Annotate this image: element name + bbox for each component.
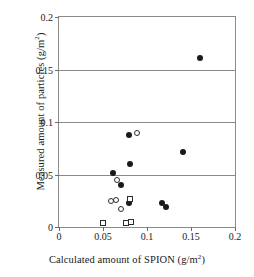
y-tick-label: 0.05	[36, 169, 54, 180]
y-tick-mark	[55, 175, 59, 176]
x-tick-label: 0	[57, 231, 62, 242]
y-axis-label-tail: )	[35, 32, 46, 36]
y-tick-label: 0	[48, 222, 53, 233]
y-axis-label-text: Measured amount of particles (g/m	[35, 40, 46, 191]
data-point-open-square	[128, 219, 134, 225]
x-tick-label: 0.1	[141, 231, 154, 242]
data-point-open-square	[127, 196, 133, 202]
x-axis-label: Calculated amount of SPION (g/m2)	[0, 254, 254, 265]
data-point-filled-circle	[126, 132, 132, 138]
data-point-filled-circle	[197, 55, 203, 61]
y-axis-label: Measured amount of particles (g/m2)	[35, 2, 46, 222]
scatter-plot-figure: Measured amount of particles (g/m2) 00.0…	[0, 0, 254, 277]
y-axis-label-superscript: 2	[33, 36, 41, 40]
data-point-open-circle	[118, 206, 124, 212]
gridline-y	[59, 70, 235, 71]
y-tick-label: 0.15	[36, 64, 54, 75]
data-point-filled-circle	[118, 182, 124, 188]
plot-area: 00.050.10.150.200.050.10.150.2	[58, 16, 236, 228]
x-tick-label: 0.15	[182, 231, 200, 242]
gridline-y	[59, 122, 235, 123]
data-point-filled-circle	[110, 170, 116, 176]
y-tick-mark	[55, 17, 59, 18]
data-point-open-circle	[113, 197, 119, 203]
x-axis-label-tail: )	[201, 254, 205, 265]
x-tick-label: 0.05	[94, 231, 112, 242]
y-tick-mark	[55, 122, 59, 123]
data-point-filled-circle	[127, 161, 133, 167]
x-tick-label: 0.2	[229, 231, 242, 242]
y-tick-label: 0.1	[41, 117, 54, 128]
y-tick-mark	[55, 70, 59, 71]
data-point-open-circle	[114, 177, 120, 183]
x-axis-label-text: Calculated amount of SPION (g/m	[49, 254, 198, 265]
data-point-open-circle	[134, 130, 140, 136]
y-tick-label: 0.2	[41, 12, 54, 23]
data-point-open-square	[100, 220, 106, 226]
data-point-filled-circle	[163, 204, 169, 210]
gridline-y	[59, 175, 235, 176]
data-point-filled-circle	[180, 149, 186, 155]
